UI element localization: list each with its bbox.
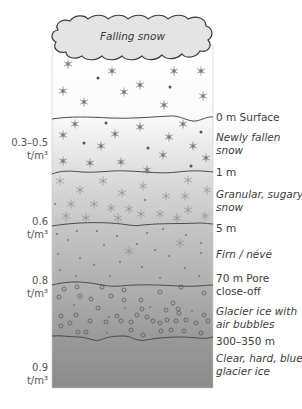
label-blue-ice-2: glacier ice [216, 365, 270, 378]
label-newly-fallen-1: Newly fallen [216, 131, 280, 144]
label-70m-pore-2: close-off [216, 285, 261, 298]
label-granular-2: snow [216, 201, 243, 214]
density-unit-ice: t/m³ [2, 374, 48, 387]
density-value-firn: 0.8 [2, 274, 48, 287]
cloud-label: Falling snow [52, 30, 213, 42]
density-unit-granular: t/m³ [2, 228, 48, 241]
density-unit-firn: t/m³ [2, 287, 48, 300]
label-granular-1: Granular, sugary [216, 188, 302, 201]
label-newly-fallen-2: snow [216, 144, 243, 157]
label-firn: Firn / névé [216, 248, 272, 261]
density-unit-snow: t/m³ [2, 149, 48, 162]
density-value-snow: 0.3–0.5 [2, 136, 48, 149]
label-bubble-ice-1: Glacier ice with [216, 305, 297, 318]
label-70m-pore-1: 70 m Pore [216, 272, 269, 285]
label-1m-depth: 1 m [216, 166, 236, 179]
label-5m-depth: 5 m [216, 222, 236, 235]
label-300m-depth: 300–350 m [216, 335, 275, 348]
firn-densification-diagram: Falling snow 0 m Surface Newly fallen sn… [0, 0, 302, 409]
label-surface-depth: 0 m Surface [216, 111, 280, 124]
label-bubble-ice-2: air bubbles [216, 318, 275, 331]
density-value-ice: 0.9 [2, 361, 48, 374]
label-blue-ice-1: Clear, hard, blue [216, 352, 302, 365]
density-value-granular: 0.6 [2, 215, 48, 228]
